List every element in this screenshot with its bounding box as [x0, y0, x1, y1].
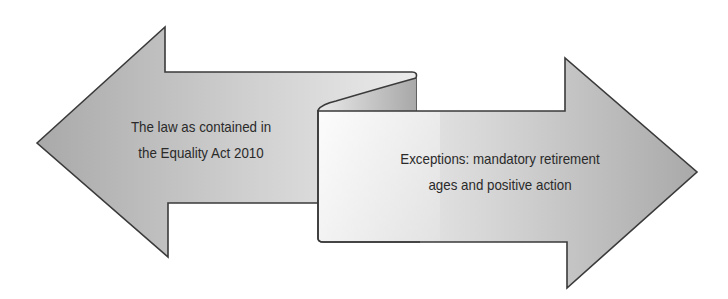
left-arrow-line-2: the Equality Act 2010 [104, 140, 297, 166]
right-arrow-label: Exceptions: mandatory retirement ages an… [367, 146, 634, 198]
right-arrow-line-1: Exceptions: mandatory retirement [367, 146, 634, 172]
left-arrow-label: The law as contained in the Equality Act… [104, 114, 297, 166]
right-arrow-line-2: ages and positive action [367, 172, 634, 198]
left-arrow-line-1: The law as contained in [104, 114, 297, 140]
